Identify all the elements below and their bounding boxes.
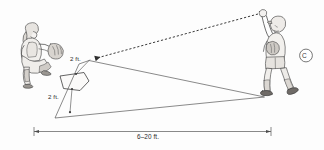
label-upper-height: 2 ft. xyxy=(70,55,81,62)
catcher-figure xyxy=(21,23,63,89)
diagram-artwork xyxy=(0,0,324,150)
strike-zone-lines xyxy=(55,61,265,119)
thrower-figure xyxy=(259,9,298,95)
diagram-canvas: 2 ft. 2 ft. 6–20 ft. C xyxy=(0,0,324,150)
label-reference-mark: C xyxy=(302,52,307,59)
label-distance-span: 6–20 ft. xyxy=(137,133,159,140)
home-plate-pentagon xyxy=(60,73,89,91)
label-lower-height: 2 ft. xyxy=(48,93,59,100)
ball-trajectory-dashed-arrow xyxy=(95,14,258,59)
